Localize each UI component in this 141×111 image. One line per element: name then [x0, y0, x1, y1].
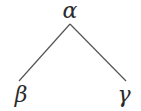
- node-alpha: α: [63, 0, 78, 22]
- edge-alpha-gamma: [70, 24, 126, 81]
- node-beta: β: [15, 84, 28, 106]
- tree-diagram: α β γ: [0, 0, 141, 111]
- node-gamma: γ: [117, 84, 130, 106]
- edge-alpha-beta: [19, 24, 70, 81]
